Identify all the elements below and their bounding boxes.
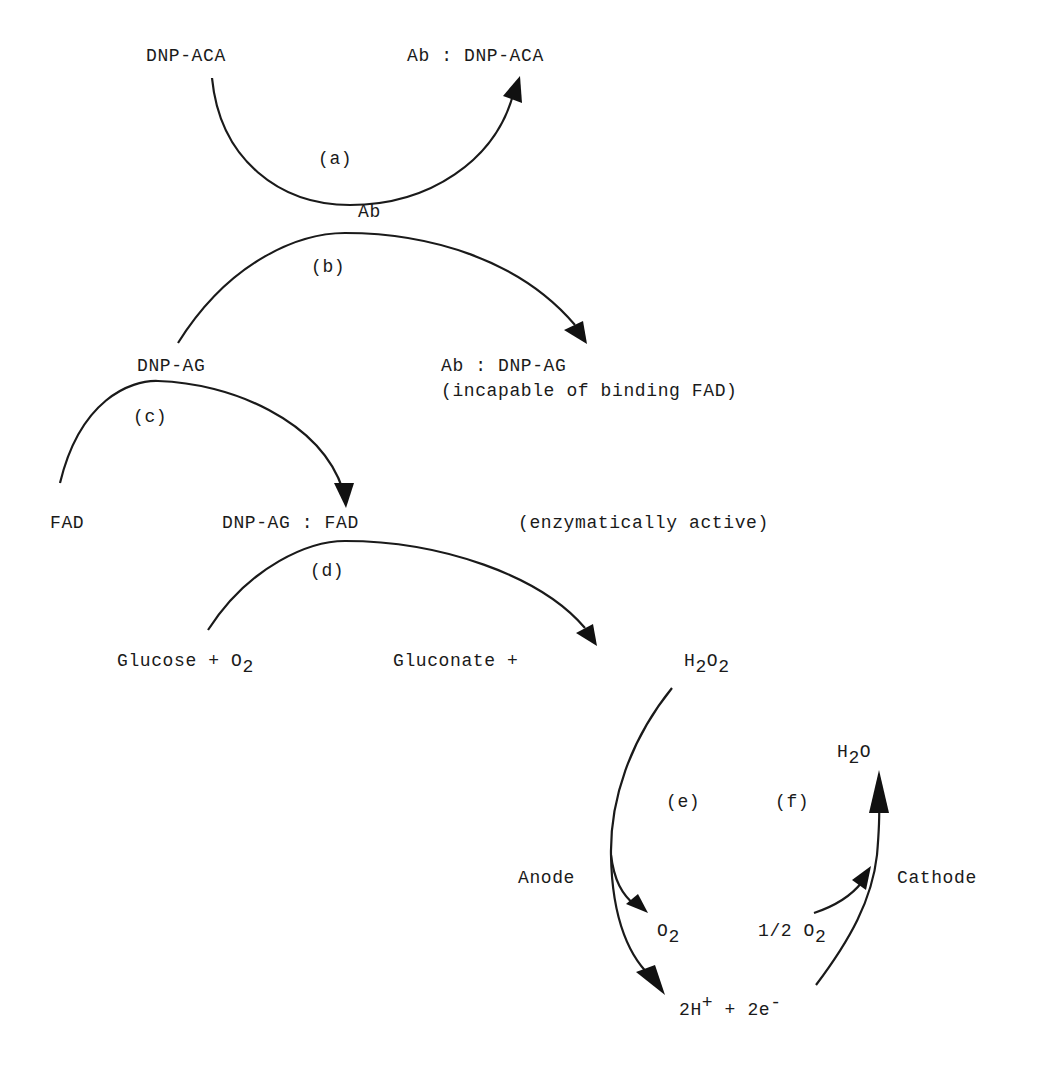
step-label-d: (d) [310, 562, 344, 580]
label-dnp-ag-fad: DNP-AG : FAD [222, 514, 359, 532]
label-anode: Anode [518, 869, 575, 887]
label-fad: FAD [50, 514, 84, 532]
step-label-e: (e) [666, 793, 700, 811]
arrows-layer [0, 0, 1063, 1072]
arrowhead-c-icon [334, 483, 354, 508]
label-dnp-aca: DNP-ACA [146, 47, 226, 65]
label-h2o2: H2O2 [684, 652, 730, 670]
label-gluconate: Gluconate + [393, 652, 530, 670]
arrow-c [60, 381, 343, 490]
arrowhead-f-o2-icon [852, 866, 871, 890]
label-ab-dnp-ag-note: (incapable of binding FAD) [441, 382, 737, 400]
arrowhead-e-icon [636, 965, 665, 995]
label-glucose-o2: Glucose + O2 [117, 652, 254, 670]
reaction-diagram: DNP-ACA Ab : DNP-ACA (a) Ab (b) DNP-AG A… [0, 0, 1063, 1072]
arrowhead-d-icon [576, 624, 597, 646]
step-label-c: (c) [133, 408, 167, 426]
arrow-b [178, 233, 575, 343]
arrow-f-o2-branch [814, 882, 862, 913]
step-label-f: (f) [775, 793, 809, 811]
arrowhead-e-o2-icon [626, 894, 648, 913]
label-ab-dnp-aca: Ab : DNP-ACA [407, 47, 544, 65]
label-cathode: Cathode [897, 869, 977, 887]
arrowhead-f-icon [869, 770, 889, 813]
label-h2o: H2O [837, 743, 871, 761]
label-dnp-ag: DNP-AG [137, 357, 205, 375]
arrow-f [816, 800, 879, 985]
arrow-d [208, 541, 585, 630]
label-dnp-ag-fad-note: (enzymatically active) [518, 514, 769, 532]
arrow-a [212, 78, 513, 205]
label-o2: O2 [657, 922, 680, 940]
label-protons-electrons: 2H+ + 2e- [679, 1001, 782, 1019]
step-label-a: (a) [318, 150, 352, 168]
label-ab: Ab [358, 203, 381, 221]
label-half-o2: 1/2 O2 [758, 922, 826, 940]
step-label-b: (b) [311, 258, 345, 276]
arrowhead-a-icon [503, 76, 522, 103]
label-ab-dnp-ag: Ab : DNP-AG [441, 357, 566, 375]
